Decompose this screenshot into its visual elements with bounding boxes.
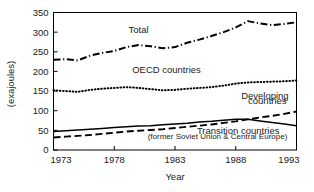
x-tick-label: 1978 <box>104 154 125 165</box>
y-tick-label: 350 <box>33 7 49 18</box>
y-tick-label: 250 <box>33 46 49 57</box>
y-axis-title: (exajoules) <box>5 61 16 107</box>
data-series-group <box>54 21 297 137</box>
total-label: Total <box>129 24 149 35</box>
series-line-1 <box>54 21 297 60</box>
x-tick-marks <box>54 146 297 150</box>
x-tick-label: 1973 <box>51 154 72 165</box>
y-tick-label: 50 <box>38 125 49 136</box>
developing-label-line2: countries <box>248 95 287 106</box>
y-tick-label: 100 <box>33 105 49 116</box>
x-axis-title: Year <box>165 171 184 182</box>
x-tick-labels: 19731978198319881993 <box>51 154 300 165</box>
y-tick-label: 150 <box>33 85 49 96</box>
x-tick-label: 1983 <box>164 154 185 165</box>
y-tick-label: 0 <box>43 144 48 155</box>
transition-sublabel: (former Soviet Union & Central Europe) <box>148 132 288 141</box>
y-tick-labels: 050100150200250300350 <box>33 7 49 156</box>
y-tick-label: 200 <box>33 66 49 77</box>
y-tick-marks <box>54 13 58 151</box>
y-tick-label: 300 <box>33 27 49 38</box>
oecd-label: OECD countries <box>132 64 201 75</box>
energy-consumption-chart: 050100150200250300350 197319781983198819… <box>0 0 314 192</box>
x-tick-label: 1988 <box>225 154 246 165</box>
x-tick-label: 1993 <box>278 154 299 165</box>
chart-svg: 050100150200250300350 197319781983198819… <box>0 0 314 192</box>
x-axis: 19731978198319881993 <box>51 146 300 165</box>
